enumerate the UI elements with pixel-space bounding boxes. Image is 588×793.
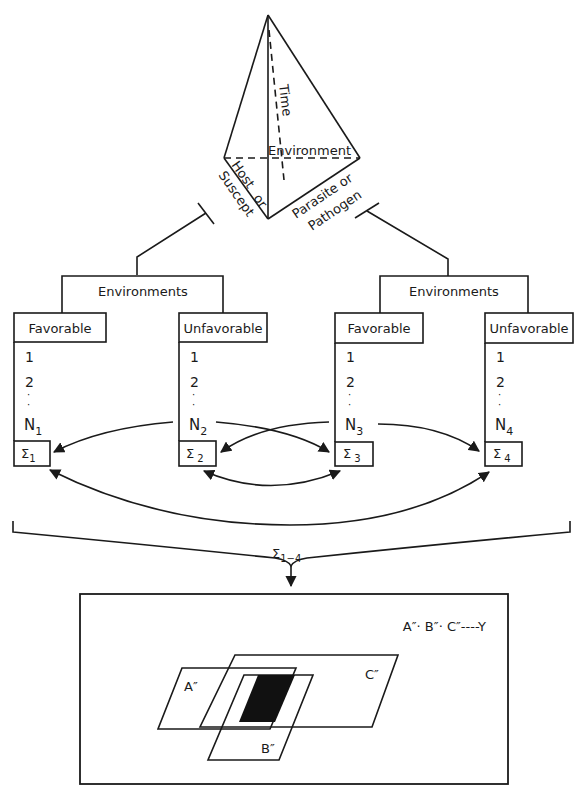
disease-tetrahedron-diagram: Time Environment Host or Suscept Parasit… [0,0,588,793]
result-box: A″· B″· C″----Y A″ C″ B″ [80,594,508,784]
set-c-parallelogram [200,655,398,727]
n-label: N2 [189,416,207,438]
sum-label: Σ4 [493,446,511,464]
time-label: Time [276,83,295,117]
sum-label: Σ3 [343,446,361,464]
sum-label: Σ1 [21,446,36,464]
n-label: N4 [495,416,513,438]
arrow-sum2-sum3 [204,471,340,486]
item-1: 1 [190,349,199,365]
n-label: N3 [345,416,363,438]
column-favorable-1: Favorable 1 2 · · N1 Σ1 [14,313,106,466]
total-sum-label: Σ1−4 [272,546,301,564]
host-label: Host or Suscept [216,158,271,219]
environment-label: Environment [268,143,351,158]
ellipsis-dot: · [27,399,30,410]
environments-title-2: Environments [409,284,499,299]
item-2: 2 [25,374,34,390]
set-c-label: C″ [365,667,379,682]
column-header: Favorable [347,321,410,336]
item-2: 2 [346,374,355,390]
arrow-sum1-sum4 [50,470,489,525]
transfer-arrows [50,422,489,525]
arrow-n2-to-sum1 [54,422,173,452]
n-label: N1 [24,416,42,438]
item-2: 2 [190,374,199,390]
environments-title-1: Environments [98,284,188,299]
set-a-label: A″ [184,679,198,694]
column-header: Unfavorable [489,321,568,336]
column-unfavorable-2: Unfavorable 1 2 · · N2 Σ2 [179,313,267,466]
ellipsis-dot: · [348,399,351,410]
item-1: 1 [346,349,355,365]
item-1: 1 [496,349,505,365]
arrow-n3-to-sum4 [378,424,479,451]
column-header: Unfavorable [183,321,262,336]
item-1: 1 [25,349,34,365]
sum-label: Σ2 [186,446,204,464]
item-2: 2 [496,374,505,390]
ellipsis-dot: · [192,399,195,410]
column-favorable-3: Favorable 1 2 · · N3 Σ3 [335,313,423,466]
ellipsis-dot: · [498,399,501,410]
arrow-n3-to-sum2 [221,422,329,452]
set-b-label: B″ [261,741,275,756]
arrow-n2-to-sum3 [216,422,329,452]
column-unfavorable-4: Unfavorable 1 2 · · N4 Σ4 [485,313,573,466]
column-header: Favorable [28,321,91,336]
result-formula: A″· B″· C″----Y [403,619,486,634]
